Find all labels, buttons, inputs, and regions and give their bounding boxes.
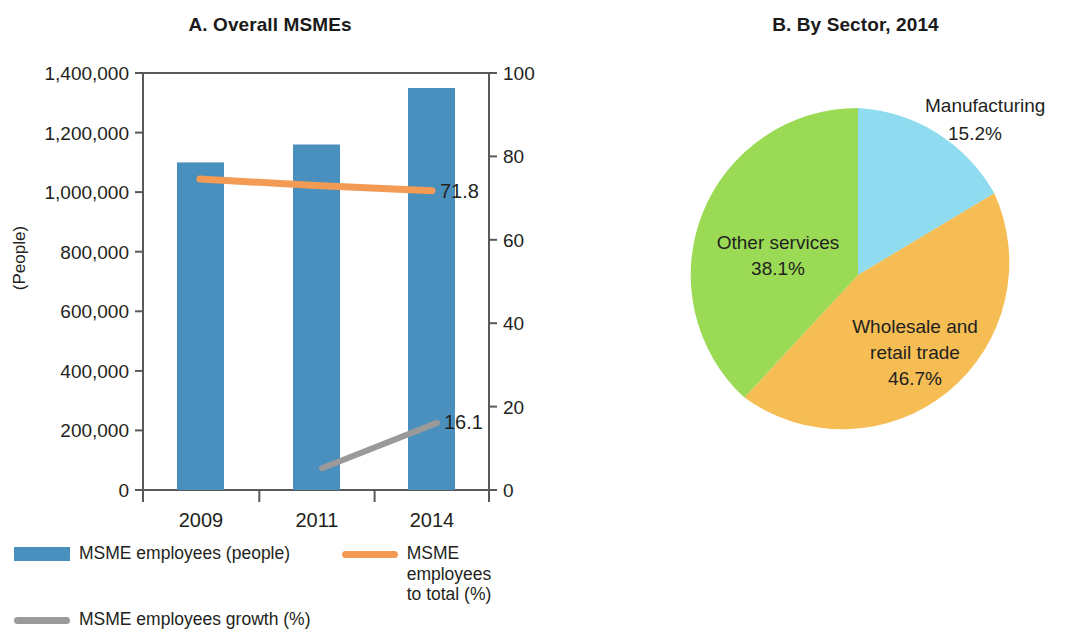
legend-row-1: MSME employees (people) MSME employees t… (14, 543, 540, 605)
pie-label-other-services-value: 38.1% (751, 258, 805, 279)
x-tick-label-2011: 2011 (295, 509, 338, 531)
legend-swatch-bar (14, 547, 70, 561)
legend-row-2: MSME employees growth (%) (14, 609, 540, 630)
right-axis-ticks (489, 73, 497, 490)
pie-label-other-services-name: Other services (717, 232, 839, 253)
left-tick-label-1200000: 1,200,000 (44, 123, 129, 144)
left-tick-label-200000: 200,000 (60, 420, 129, 441)
bar-2011 (293, 145, 340, 491)
left-tick-label-1400000: 1,400,000 (44, 63, 129, 84)
pie-chart: Manufacturing 15.2% Wholesale and retail… (640, 0, 1071, 560)
x-tick-label-2014: 2014 (410, 509, 455, 531)
right-tick-label-20: 20 (503, 397, 524, 418)
x-tick-label-2009: 2009 (179, 509, 224, 531)
legend-swatch-gray-line (14, 617, 70, 624)
left-tick-label-400000: 400,000 (60, 361, 129, 382)
right-tick-label-0: 0 (503, 480, 514, 501)
right-tick-label-100: 100 (503, 63, 535, 84)
legend-label-bar: MSME employees (people) (79, 543, 290, 564)
pie-label-manufacturing-value: 15.2% (948, 123, 1002, 144)
x-axis-ticks (143, 490, 489, 502)
panel-by-sector: B. By Sector, 2014 Manufacturing 15.2% W… (640, 0, 1071, 602)
legend-item-bar: MSME employees (people) (14, 543, 342, 564)
bar-2009 (177, 162, 224, 490)
value-label-share: 71.8 (440, 180, 479, 202)
pie-label-trade-name-line2: retail trade (870, 342, 960, 363)
legend-swatch-orange-line (342, 551, 398, 558)
left-tick-label-1000000: 1,000,000 (44, 182, 129, 203)
legend-item-orange-line: MSME employees to total (%) (342, 543, 540, 605)
legend-item-gray-line: MSME employees growth (%) (14, 609, 356, 630)
right-tick-label-80: 80 (503, 146, 524, 167)
right-tick-label-40: 40 (503, 313, 524, 334)
pie-label-trade-name-line1: Wholesale and (852, 316, 978, 337)
bar-line-chart: 0 200,000 400,000 600,000 800,000 1,000,… (0, 0, 540, 540)
left-axis-title: (People) (10, 226, 29, 290)
right-tick-label-60: 60 (503, 230, 524, 251)
left-tick-label-0: 0 (118, 480, 129, 501)
left-tick-label-800000: 800,000 (60, 242, 129, 263)
chart-a-legend: MSME employees (people) MSME employees t… (14, 543, 540, 633)
value-label-growth: 16.1 (444, 411, 483, 433)
panel-overall-msmes: A. Overall MSMEs 0 200,000 400,000 600,0… (0, 0, 540, 602)
left-axis-ticks (135, 73, 143, 490)
legend-label-gray-line: MSME employees growth (%) (79, 609, 310, 630)
pie-label-manufacturing-name: Manufacturing (925, 95, 1045, 116)
pie-label-trade-value: 46.7% (888, 368, 942, 389)
legend-label-orange-line: MSME employees to total (%) (407, 543, 540, 605)
left-tick-label-600000: 600,000 (60, 301, 129, 322)
